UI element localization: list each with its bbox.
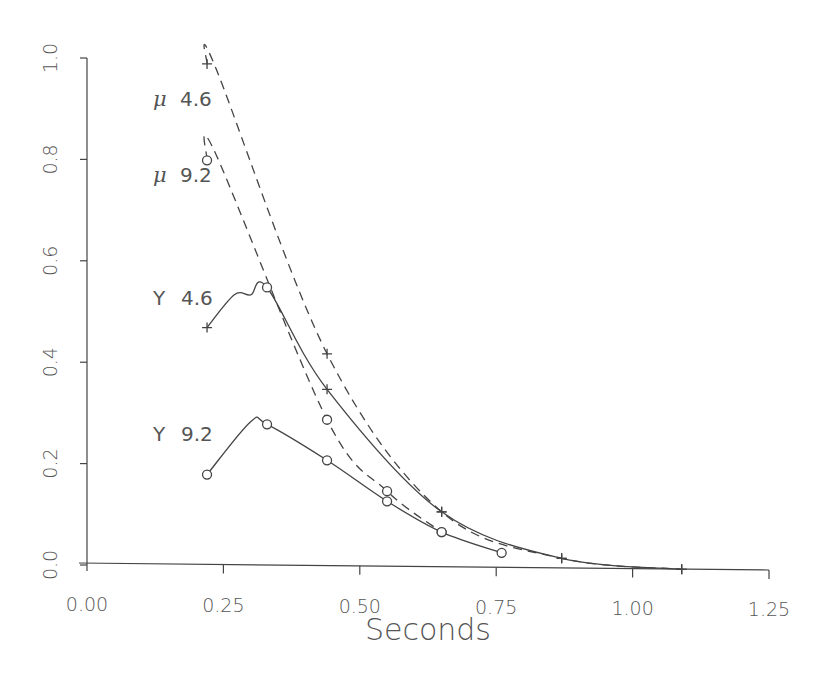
x-axis-title: Seconds — [365, 612, 491, 647]
series-curve-y-9-2 — [207, 417, 502, 553]
y-tick-label: 0.0 — [39, 550, 61, 580]
circle-marker-icon — [437, 528, 446, 537]
circle-marker-icon — [263, 283, 272, 292]
markers — [202, 59, 687, 574]
series-curve-y-4-6 — [207, 282, 682, 570]
y-tick-label: 0.4 — [39, 347, 61, 377]
series-curve--9-2 — [204, 135, 442, 532]
series-curve--4-6 — [204, 44, 682, 569]
plus-marker-icon — [677, 564, 687, 574]
plus-marker-icon — [557, 553, 567, 563]
plus-marker-icon — [202, 59, 212, 69]
x-tick-label: 0.00 — [66, 593, 108, 615]
y-tick-label: 0.6 — [39, 246, 61, 276]
circle-marker-icon — [497, 548, 506, 557]
label-y-9-2-value: 9.2 — [181, 422, 213, 446]
label-y-4-6-symbol: Y — [152, 286, 166, 310]
plus-marker-icon — [322, 349, 332, 359]
circle-marker-icon — [323, 415, 332, 424]
label-y-4-6-value: 4.6 — [181, 286, 213, 310]
label-mu-4-6-symbol: μ — [153, 87, 167, 111]
circle-marker-icon — [323, 456, 332, 465]
chart: 0.00.20.40.60.81.00.000.250.500.751.001.… — [0, 0, 835, 689]
x-tick-label: 1.25 — [748, 598, 790, 620]
circle-marker-icon — [203, 470, 212, 479]
label-y-9-2-symbol: Y — [152, 422, 166, 446]
circle-marker-icon — [383, 497, 392, 506]
label-mu-9-2-symbol: μ — [153, 163, 167, 187]
y-tick-label: 0.2 — [39, 448, 61, 478]
circle-marker-icon — [383, 487, 392, 496]
label-mu-9-2-value: 9.2 — [180, 163, 212, 187]
y-tick-label: 1.0 — [39, 43, 61, 73]
circle-marker-icon — [263, 420, 272, 429]
x-tick-label: 1.00 — [611, 597, 653, 619]
curves — [204, 44, 682, 569]
y-tick-label: 0.8 — [39, 144, 61, 174]
label-mu-4-6-value: 4.6 — [180, 87, 212, 111]
x-tick-label: 0.25 — [202, 594, 244, 616]
axes: 0.00.20.40.60.81.00.000.250.500.751.001.… — [39, 43, 790, 620]
